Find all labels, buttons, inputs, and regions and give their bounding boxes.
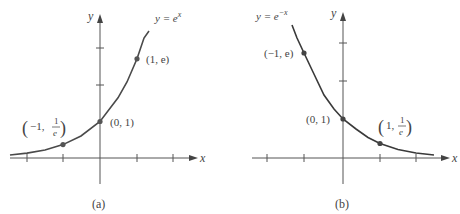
svg-text:): ) xyxy=(406,117,412,138)
point-neg1-e xyxy=(301,50,306,55)
panel-caption-a: (a) xyxy=(92,197,105,211)
svg-text:e: e xyxy=(399,127,403,137)
x-axis-label: x xyxy=(451,151,458,165)
y-axis-arrow-icon xyxy=(97,14,103,23)
svg-text:(: ( xyxy=(22,118,28,139)
point-0-1 xyxy=(97,119,102,124)
y-axis-label: y xyxy=(87,9,94,23)
panel-a: y x y = ex (1, e) (0, 1) ( −1, 1 e ) (a) xyxy=(10,9,206,211)
function-label: y = e−x xyxy=(255,8,288,22)
curve-exp xyxy=(10,31,149,155)
y-axis-arrow-icon xyxy=(340,12,346,21)
point-1-e xyxy=(134,56,139,61)
curve-exp-neg xyxy=(292,25,434,155)
point-label-1-inv-e: ( 1, 1 e ) xyxy=(378,115,412,138)
svg-text:1: 1 xyxy=(400,115,405,125)
point-label-0-1: (0, 1) xyxy=(306,113,330,126)
point-label-0-1: (0, 1) xyxy=(110,116,134,129)
point-label-neg1-inv-e: ( −1, 1 e ) xyxy=(22,116,66,139)
panel-caption-b: (b) xyxy=(335,197,349,211)
svg-text:1,: 1, xyxy=(386,119,395,131)
x-axis-label: x xyxy=(199,151,206,165)
svg-text:e: e xyxy=(53,128,57,138)
figure: y x y = ex (1, e) (0, 1) ( −1, 1 e ) (a) xyxy=(0,0,460,214)
panel-b: y x y = e−x (−1, e) (0, 1) ( 1, 1 e ) (b… xyxy=(252,6,458,211)
point-label-neg1-e: (−1, e) xyxy=(264,47,294,60)
point-1-inv-e xyxy=(377,141,382,146)
svg-text:): ) xyxy=(60,118,66,139)
point-label-1-e: (1, e) xyxy=(146,53,170,66)
point-0-1 xyxy=(340,116,345,121)
svg-text:1: 1 xyxy=(54,116,59,126)
function-label: y = ex xyxy=(154,10,182,24)
x-axis-arrow-icon xyxy=(441,155,450,161)
x-axis-arrow-icon xyxy=(189,155,198,161)
svg-text:(: ( xyxy=(378,117,384,138)
y-axis-label: y xyxy=(330,6,337,20)
point-neg1-inv-e xyxy=(60,142,65,147)
svg-text:−1,: −1, xyxy=(30,120,45,132)
